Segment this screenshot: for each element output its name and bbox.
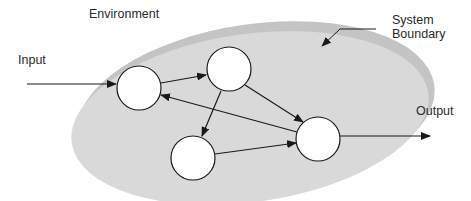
node-d (296, 117, 340, 161)
node-a (117, 66, 161, 110)
input-label: Input (18, 53, 46, 68)
node-b (207, 47, 251, 91)
environment-label: Environment (89, 7, 159, 22)
output-label: Output (416, 104, 454, 119)
node-c (171, 136, 215, 180)
system-boundary-label-line2: Boundary (392, 27, 446, 42)
system-boundary-disc (60, 0, 446, 201)
system-boundary-label-line1: System (392, 13, 434, 28)
